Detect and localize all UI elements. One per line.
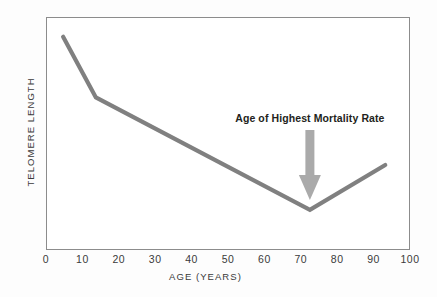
- down-arrow-icon: [299, 130, 321, 200]
- telomere-length-chart: TELOMERE LENGTH AGE (YEARS) 010203040506…: [0, 0, 437, 297]
- x-tick-label: 70: [294, 253, 307, 265]
- x-tick-label: 100: [400, 253, 419, 265]
- x-tick-label: 0: [43, 253, 49, 265]
- x-tick-label: 10: [76, 253, 89, 265]
- x-tick-label: 40: [185, 253, 198, 265]
- x-axis-title: AGE (YEARS): [0, 271, 437, 282]
- mortality-annotation-label: Age of Highest Mortality Rate: [235, 112, 384, 124]
- x-tick-label: 60: [258, 253, 271, 265]
- x-tick-label: 30: [149, 253, 162, 265]
- x-tick-label: 90: [367, 253, 380, 265]
- y-axis-title: TELOMERE LENGTH: [25, 77, 36, 186]
- x-tick-label: 50: [222, 253, 235, 265]
- x-tick-label: 80: [331, 253, 344, 265]
- x-tick-label: 20: [112, 253, 125, 265]
